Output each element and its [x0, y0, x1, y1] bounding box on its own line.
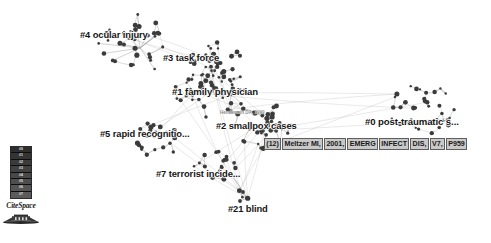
cluster-label-1[interactable]: #1 family physician	[172, 86, 258, 97]
network-node[interactable]	[403, 100, 408, 105]
network-node[interactable]	[223, 75, 225, 77]
network-node[interactable]	[156, 31, 161, 36]
citation-token[interactable]: Meltzer MI,	[282, 138, 323, 150]
citation-token[interactable]: P959	[446, 138, 467, 150]
network-node[interactable]	[237, 188, 242, 193]
network-node[interactable]	[221, 80, 223, 82]
network-node[interactable]	[417, 127, 420, 130]
cluster-label-21[interactable]: #21 blind	[228, 203, 268, 214]
network-node[interactable]	[398, 105, 402, 109]
citation-token[interactable]: DIS,	[410, 138, 428, 150]
network-node[interactable]	[217, 47, 219, 49]
network-node[interactable]	[207, 45, 210, 48]
network-node[interactable]	[133, 46, 138, 51]
network-node[interactable]	[259, 146, 262, 149]
network-node[interactable]	[202, 153, 207, 158]
network-node[interactable]	[239, 102, 243, 106]
cluster-label-2[interactable]: #2 smallpox cases	[216, 120, 297, 131]
network-node[interactable]	[145, 153, 149, 157]
network-node[interactable]	[233, 77, 236, 80]
node-citation-label[interactable]: Henderson DA, 1999	[220, 110, 265, 115]
network-node[interactable]	[148, 55, 152, 59]
network-node[interactable]	[185, 82, 187, 84]
network-node[interactable]	[132, 63, 135, 66]
network-node[interactable]	[192, 74, 194, 76]
network-node[interactable]	[230, 67, 234, 71]
network-node[interactable]	[209, 65, 213, 69]
network-node[interactable]	[245, 196, 249, 200]
network-node[interactable]	[197, 98, 201, 102]
network-node[interactable]	[232, 161, 236, 165]
network-node[interactable]	[190, 78, 193, 81]
network-node[interactable]	[241, 190, 245, 194]
network-node[interactable]	[272, 105, 276, 109]
network-node[interactable]	[225, 158, 228, 161]
network-node[interactable]	[140, 148, 143, 151]
network-node[interactable]	[391, 105, 396, 110]
network-node[interactable]	[424, 91, 428, 95]
network-node[interactable]	[218, 76, 221, 79]
network-node[interactable]	[191, 99, 194, 102]
network-node[interactable]	[394, 92, 399, 97]
network-node[interactable]	[432, 90, 437, 95]
network-node[interactable]	[241, 196, 244, 199]
cluster-label-3[interactable]: #3 task force	[163, 52, 219, 63]
cluster-label-0[interactable]: #0 post-traumatic s...	[365, 116, 459, 127]
citation-token[interactable]: EMERG	[347, 138, 378, 150]
network-node[interactable]	[270, 114, 275, 119]
network-node[interactable]	[411, 106, 416, 111]
network-node[interactable]	[257, 143, 259, 145]
legend-row-7[interactable]: #7	[11, 192, 31, 198]
citation-burst-color-bar[interactable]: #0#1#2#3#4#5#6#7	[10, 146, 32, 199]
network-node[interactable]	[439, 87, 441, 89]
network-node[interactable]	[202, 73, 205, 76]
citation-token[interactable]: (12)	[264, 138, 281, 150]
network-node[interactable]	[235, 49, 240, 54]
network-node[interactable]	[225, 155, 229, 159]
network-node[interactable]	[153, 20, 158, 25]
network-node[interactable]	[427, 105, 430, 108]
network-node[interactable]	[264, 133, 268, 137]
network-node[interactable]	[161, 145, 165, 149]
cluster-label-7[interactable]: #7 terrorist incide...	[156, 168, 240, 179]
network-node[interactable]	[203, 78, 208, 83]
cluster-label-4[interactable]: #4 ocular injury	[80, 29, 148, 40]
network-node[interactable]	[212, 74, 215, 77]
network-node[interactable]	[205, 73, 210, 78]
network-node[interactable]	[415, 127, 417, 129]
network-node[interactable]	[440, 112, 444, 116]
network-node[interactable]	[452, 108, 455, 111]
network-node[interactable]	[238, 54, 242, 58]
network-node[interactable]	[202, 104, 207, 109]
network-node[interactable]	[286, 131, 289, 134]
network-node[interactable]	[239, 75, 242, 78]
network-node[interactable]	[209, 47, 212, 50]
network-node[interactable]	[97, 42, 100, 45]
network-node[interactable]	[135, 141, 140, 146]
network-node[interactable]	[151, 123, 155, 127]
network-node[interactable]	[266, 112, 271, 117]
network-node[interactable]	[229, 54, 234, 59]
network-node[interactable]	[229, 101, 233, 105]
network-node[interactable]	[145, 121, 149, 125]
cluster-label-5[interactable]: #5 rapid recognitio...	[100, 128, 190, 139]
network-node[interactable]	[213, 69, 216, 72]
network-node[interactable]	[204, 66, 207, 69]
selected-citation-label[interactable]: (12)Meltzer MI,2001,EMERGINFECTDIS,V7,P9…	[264, 138, 467, 150]
network-node[interactable]	[209, 80, 213, 84]
network-node[interactable]	[122, 42, 126, 46]
network-node[interactable]	[111, 59, 115, 63]
network-node[interactable]	[176, 97, 179, 100]
network-node[interactable]	[437, 104, 441, 108]
network-node[interactable]	[134, 53, 139, 58]
network-node[interactable]	[215, 40, 219, 44]
network-node[interactable]	[414, 87, 419, 92]
network-node[interactable]	[161, 45, 164, 48]
network-node[interactable]	[102, 51, 107, 56]
network-node[interactable]	[210, 69, 213, 72]
network-node[interactable]	[430, 131, 434, 135]
network-node[interactable]	[153, 148, 156, 151]
network-node[interactable]	[214, 150, 218, 154]
network-node[interactable]	[422, 97, 426, 101]
citation-token[interactable]: V7,	[430, 138, 445, 150]
